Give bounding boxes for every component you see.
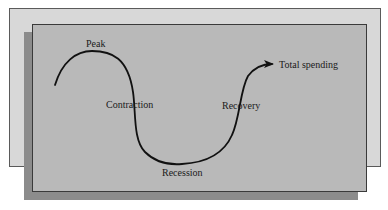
peak-label: Peak: [86, 39, 105, 49]
business-cycle-curve: [0, 0, 388, 210]
recovery-label: Recovery: [222, 101, 260, 111]
contraction-label: Contraction: [106, 100, 153, 110]
total-spending-label: Total spending: [279, 60, 338, 70]
recession-label: Recession: [162, 168, 203, 178]
